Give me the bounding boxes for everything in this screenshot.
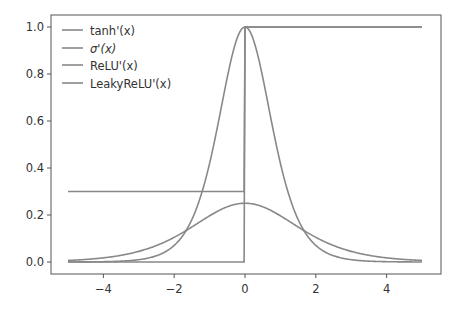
x-axis: −4−2024 — [95, 274, 390, 296]
x-tick-label: 4 — [383, 282, 390, 296]
y-tick-label: 0.8 — [26, 67, 44, 81]
y-tick-label: 0.6 — [26, 114, 44, 128]
chart: −4−2024 0.00.20.40.60.81.0 tanh'(x) σ'(x… — [0, 0, 457, 315]
x-tick-label: 2 — [312, 282, 319, 296]
y-tick-label: 0.4 — [26, 161, 44, 175]
legend-entry-tanh: tanh'(x) — [62, 24, 135, 38]
legend-label: ReLU'(x) — [90, 59, 138, 73]
legend-entry-relu: ReLU'(x) — [62, 59, 138, 73]
y-tick-label: 0.0 — [26, 255, 44, 269]
legend-entry-leaky-relu: LeakyReLU'(x) — [62, 77, 171, 91]
leaky-relu-derivative-line — [68, 27, 422, 192]
legend-label: σ'(x) — [90, 42, 116, 56]
x-tick-label: 0 — [241, 282, 248, 296]
y-tick-label: 1.0 — [26, 20, 44, 34]
legend-entry-sigmoid: σ'(x) — [62, 42, 116, 56]
y-tick-label: 0.2 — [26, 208, 44, 222]
y-axis: 0.00.20.40.60.81.0 — [26, 20, 51, 269]
legend-label: tanh'(x) — [90, 24, 135, 38]
legend-label: LeakyReLU'(x) — [90, 77, 171, 91]
legend: tanh'(x) σ'(x) ReLU'(x) LeakyReLU'(x) — [62, 24, 171, 91]
x-tick-label: −4 — [95, 282, 112, 296]
x-tick-label: −2 — [166, 282, 183, 296]
